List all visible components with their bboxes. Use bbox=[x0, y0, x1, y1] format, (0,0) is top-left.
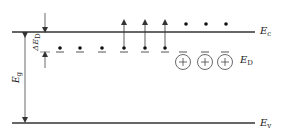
excitation-arrows bbox=[124, 22, 165, 47]
band-diagram-canvas bbox=[0, 0, 287, 139]
ionized-donors bbox=[176, 55, 233, 70]
donor-electrons bbox=[58, 46, 167, 50]
donor-level-label: ED bbox=[240, 55, 253, 67]
conduction-band-label: Ec bbox=[260, 26, 271, 38]
bandgap-label: Eg bbox=[12, 72, 23, 83]
donor-ionization-label: ΔED bbox=[32, 33, 42, 50]
valence-band-label: Ev bbox=[260, 118, 271, 130]
conduction-electrons bbox=[184, 22, 228, 26]
